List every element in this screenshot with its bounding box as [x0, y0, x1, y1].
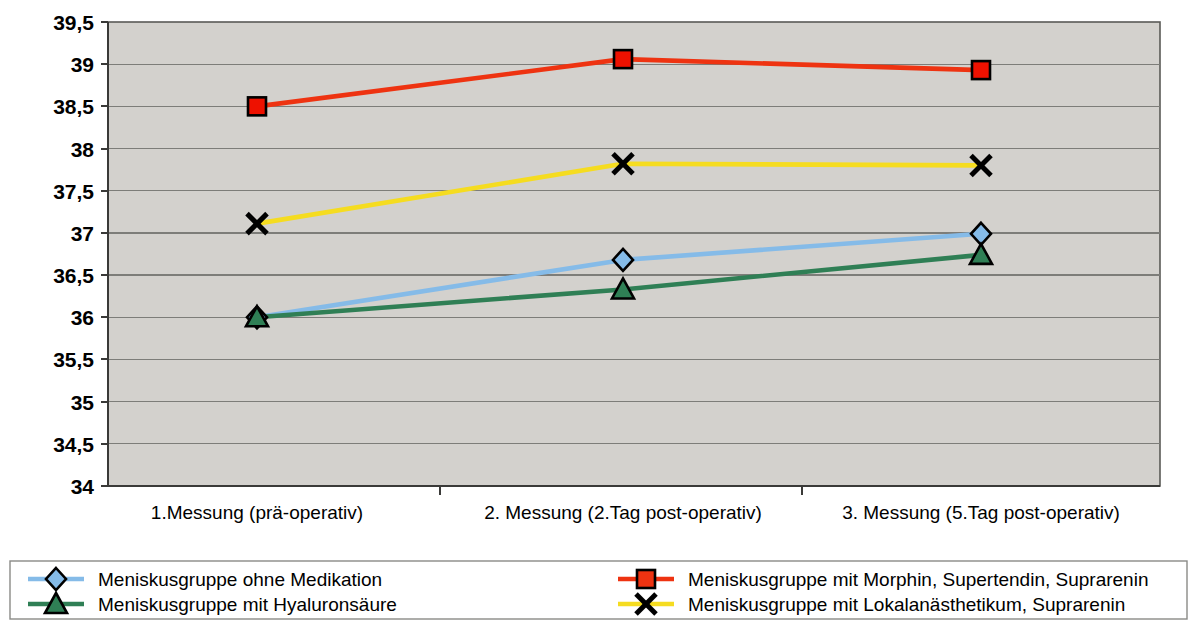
y-axis-tick-label: 39	[71, 53, 94, 76]
y-axis-tick-label: 37,5	[53, 180, 94, 203]
y-axis-tick-label: 36,5	[53, 264, 94, 287]
y-axis-tick-label: 37	[71, 222, 94, 245]
square-marker-icon	[614, 50, 632, 68]
y-axis-tick-label: 35,5	[53, 348, 94, 371]
y-axis-tick-label: 34	[71, 475, 95, 498]
legend-entry-label: Meniskusgruppe ohne Medikation	[98, 569, 382, 590]
square-marker-icon	[637, 570, 655, 588]
legend-entry-label: Meniskusgruppe mit Morphin, Supertendin,…	[688, 569, 1148, 590]
legend-entry-label: Meniskusgruppe mit Lokalanästhetikum, Su…	[688, 594, 1125, 615]
data-point-marker-2-2	[972, 61, 990, 79]
x-axis-category-label-2: 3. Messung (5.Tag post-operativ)	[842, 502, 1120, 523]
y-axis-tick-label: 38,5	[53, 95, 94, 118]
chart-container: 39,53938,53837,53736,53635,53534,534 1.M…	[0, 0, 1197, 629]
legend-entry-2[interactable]: Meniskusgruppe mit Morphin, Supertendin,…	[618, 569, 1148, 590]
y-axis-tick-label: 38	[71, 138, 95, 161]
y-axis-tick-label: 35	[71, 391, 95, 414]
data-point-marker-2-0	[248, 97, 266, 115]
data-point-marker-2-1	[614, 50, 632, 68]
y-axis-tick-label: 36	[71, 306, 94, 329]
x-axis-category-labels: 1.Messung (prä-operativ)2. Messung (2.Ta…	[151, 502, 1120, 523]
square-marker-icon	[248, 97, 266, 115]
y-axis-tick-label: 34,5	[53, 433, 94, 456]
chart-legend: Meniskusgruppe ohne MedikationMeniskusgr…	[10, 561, 1187, 619]
y-axis-tick-label: 39,5	[53, 11, 94, 34]
y-axis-tick-labels: 39,53938,53837,53736,53635,53534,534	[53, 11, 94, 498]
x-axis-category-label-0: 1.Messung (prä-operativ)	[151, 502, 363, 523]
square-marker-icon	[972, 61, 990, 79]
data-point-marker-legend-2	[637, 570, 655, 588]
x-axis-category-label-1: 2. Messung (2.Tag post-operativ)	[484, 502, 762, 523]
plot-area-background	[108, 22, 1160, 486]
legend-entry-3[interactable]: Meniskusgruppe mit Lokalanästhetikum, Su…	[618, 594, 1125, 615]
line-chart: 39,53938,53837,53736,53635,53534,534 1.M…	[0, 0, 1197, 629]
legend-entry-label: Meniskusgruppe mit Hyaluronsäure	[98, 594, 397, 615]
